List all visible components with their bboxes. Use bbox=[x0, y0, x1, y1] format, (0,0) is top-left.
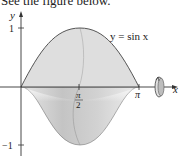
x-tick-label-pi-half-denominator: 2 bbox=[76, 100, 81, 110]
x-tick-label-pi: π bbox=[135, 89, 141, 100]
y-axis-label: y bbox=[9, 9, 15, 21]
curve-label: y = sin x bbox=[110, 30, 149, 42]
y-tick-label-1: 1 bbox=[9, 23, 14, 34]
rotation-about-x-axis-icon bbox=[155, 77, 164, 97]
y-axis-arrow-icon bbox=[19, 11, 23, 17]
x-axis-label: x bbox=[172, 83, 178, 95]
solid-of-revolution-figure: y 1 −1 π 2 π x y = sin x bbox=[0, 0, 184, 156]
x-tick-label-pi-half-numerator: π bbox=[76, 90, 81, 100]
y-tick-label-neg1: −1 bbox=[2, 140, 13, 151]
